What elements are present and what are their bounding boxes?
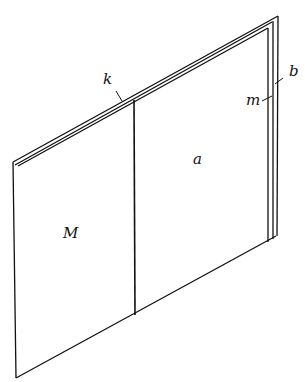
bottom-edge: [16, 236, 276, 378]
diagram-canvas: [0, 0, 305, 382]
label-a: a: [193, 152, 202, 167]
label-m: m: [246, 93, 260, 108]
leader-k: [116, 91, 122, 101]
leader-m: [262, 96, 272, 101]
label-k: k: [103, 72, 112, 87]
panel-m-left-edge: [13, 162, 16, 378]
label-b: b: [289, 64, 299, 79]
right-edge-b: [277, 16, 278, 236]
top-edge-inner-2: [18, 28, 268, 166]
crease-line: [134, 100, 135, 315]
label-M: M: [63, 226, 78, 241]
top-edge-inner-1: [15, 22, 272, 165]
leader-b: [275, 78, 283, 84]
top-edge-outer: [13, 16, 278, 162]
